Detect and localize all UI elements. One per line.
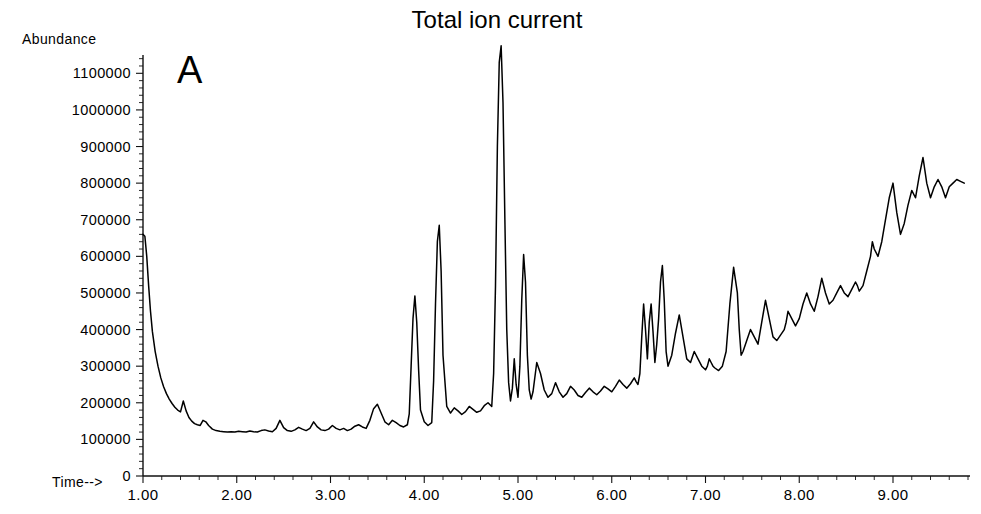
y-tick-label: 200000 <box>80 395 131 411</box>
x-tick-label: 3.00 <box>315 486 346 503</box>
x-tick-label: 4.00 <box>409 486 440 503</box>
y-tick-label: 100000 <box>80 431 131 447</box>
x-tick-label: 2.00 <box>221 486 252 503</box>
x-tick-label: 7.00 <box>690 486 721 503</box>
x-tick-label: 1.00 <box>127 486 158 503</box>
x-tick-label: 8.00 <box>784 486 815 503</box>
x-tick-label: 5.00 <box>502 486 533 503</box>
chart-title: Total ion current <box>412 6 583 33</box>
y-axis-title: Abundance <box>22 31 96 47</box>
panel-label: A <box>177 49 203 91</box>
y-tick-label: 0 <box>123 468 131 484</box>
y-tick-label: 500000 <box>80 285 131 301</box>
x-axis-title: Time--> <box>52 474 103 490</box>
y-tick-label: 1000000 <box>72 102 131 118</box>
y-tick-label: 700000 <box>80 212 131 228</box>
y-tick-label: 1100000 <box>73 65 131 81</box>
y-tick-label: 400000 <box>80 322 131 338</box>
y-tick-label: 600000 <box>80 248 131 264</box>
y-tick-label: 800000 <box>80 175 131 191</box>
chart-canvas: Total ion current A Abundance Time--> 01… <box>0 0 981 514</box>
x-tick-label: 9.00 <box>877 486 908 503</box>
x-tick-label: 6.00 <box>596 486 627 503</box>
y-tick-label: 300000 <box>80 358 131 374</box>
y-tick-label: 900000 <box>80 139 131 155</box>
chromatogram-figure: Total ion current A Abundance Time--> 01… <box>0 0 981 514</box>
